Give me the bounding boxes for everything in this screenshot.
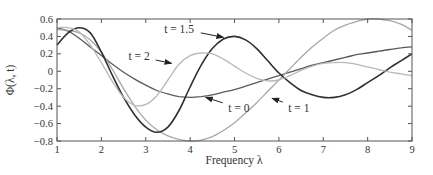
arrow-icon	[206, 97, 223, 102]
arrow-icon	[156, 60, 172, 63]
x-tick-label: 6	[276, 144, 281, 155]
series-line-t-0	[57, 28, 412, 98]
svg-text:t = 1.5: t = 1.5	[164, 23, 194, 35]
y-tick-label: −0.2	[34, 83, 53, 94]
y-tick-label: 0.2	[40, 48, 53, 59]
x-axis-title: Frequency λ	[206, 154, 263, 167]
y-tick-labels: 0.60.40.20−0.2−0.4−0.6−0.8	[34, 14, 54, 147]
x-tick-label: 4	[188, 144, 194, 155]
annotation-t-1-5: t = 1.5	[164, 23, 223, 38]
svg-text:t = 0: t = 0	[228, 102, 249, 114]
arrow-icon	[201, 33, 224, 37]
annotation-t-1: t = 1	[272, 98, 309, 114]
arrow-icon	[272, 98, 283, 102]
x-tick-label: 3	[143, 144, 148, 155]
annotation-t-2: t = 2	[129, 50, 172, 63]
y-tick-label: −0.8	[34, 136, 53, 147]
y-tick-label: 0.4	[40, 31, 54, 42]
annotation-t-0: t = 0	[206, 97, 250, 113]
x-tick-label: 7	[321, 144, 326, 155]
svg-text:t = 1: t = 1	[288, 102, 309, 114]
y-tick-label: 0	[48, 66, 53, 77]
x-tick-label: 9	[409, 144, 414, 155]
x-tick-label: 8	[365, 144, 370, 155]
y-tick-label: −0.6	[34, 118, 53, 129]
series-line-t-1-5	[57, 28, 412, 133]
y-tick-label: −0.4	[34, 101, 54, 112]
x-tick-label: 2	[99, 144, 104, 155]
series-layer	[57, 19, 412, 141]
x-tick-label: 1	[54, 144, 59, 155]
y-axis-title: Φ(λ, t)	[4, 65, 17, 96]
line-chart: 123456789 0.60.40.20−0.2−0.4−0.6−0.8 t =…	[0, 0, 433, 175]
y-tick-label: 0.6	[40, 14, 53, 25]
svg-text:t = 2: t = 2	[129, 50, 150, 62]
series-annotations: t = 2t = 1.5t = 0t = 1	[129, 23, 310, 114]
